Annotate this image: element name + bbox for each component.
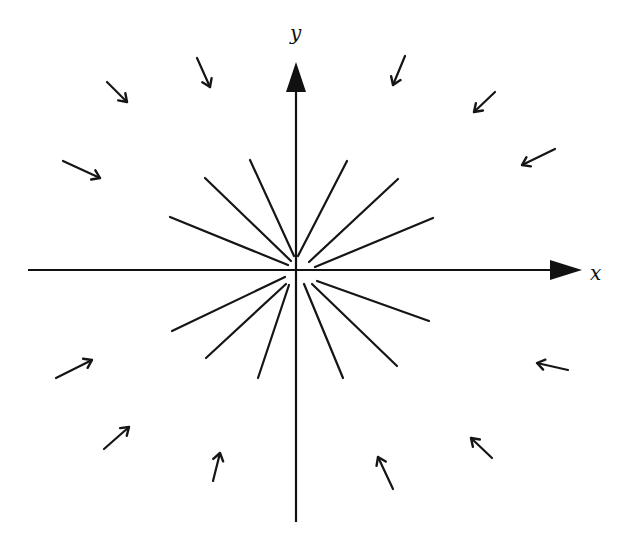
direction-arrow-icon bbox=[474, 92, 495, 112]
direction-arrow-icon bbox=[104, 427, 129, 449]
direction-arrow-icon bbox=[107, 82, 127, 102]
trajectory-ray bbox=[304, 284, 343, 378]
direction-arrow-icon bbox=[391, 56, 405, 85]
y-axis-label: y bbox=[289, 21, 302, 45]
trajectory-ray bbox=[309, 179, 398, 262]
direction-arrow-icon bbox=[471, 438, 492, 458]
axes: x y bbox=[28, 21, 601, 522]
trajectory-ray bbox=[258, 285, 289, 378]
trajectory-ray bbox=[172, 277, 285, 331]
x-axis-arrowhead-icon bbox=[550, 260, 582, 280]
y-axis-arrowhead-icon bbox=[286, 62, 306, 92]
trajectory-ray bbox=[298, 161, 347, 256]
phase-portrait-diagram: x y bbox=[0, 0, 618, 558]
trajectory-ray bbox=[317, 281, 429, 321]
direction-arrow-icon bbox=[537, 360, 568, 370]
direction-arrow-icon bbox=[377, 457, 393, 489]
direction-arrows bbox=[56, 56, 568, 489]
trajectory-ray bbox=[312, 284, 397, 366]
trajectory-ray bbox=[315, 218, 433, 267]
direction-arrow-icon bbox=[213, 453, 223, 481]
direction-arrow-icon bbox=[56, 359, 92, 378]
direction-arrow-icon bbox=[522, 149, 555, 166]
direction-arrow-icon bbox=[197, 58, 212, 87]
x-axis-label: x bbox=[590, 261, 601, 285]
direction-arrow-icon bbox=[63, 161, 100, 180]
